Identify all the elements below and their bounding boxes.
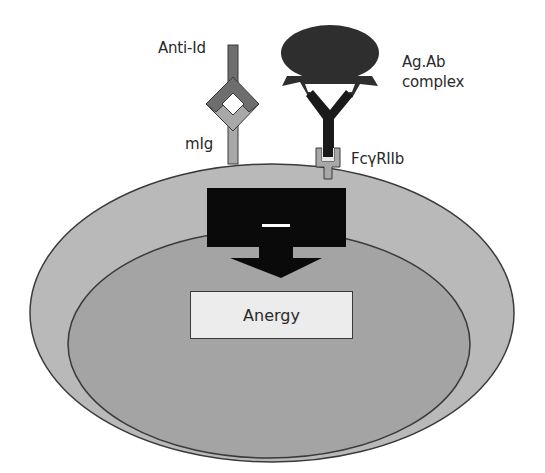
label-anti-id: Anti-Id <box>158 39 206 57</box>
label-ag-ab-complex: Ag.Ab complex <box>402 52 464 92</box>
label-ag-ab-line2: complex <box>402 72 464 92</box>
label-ag-ab-line1: Ag.Ab <box>402 52 464 72</box>
label-mig: mIg <box>185 135 213 153</box>
bound-antibody <box>306 90 353 158</box>
anti-id-antibody <box>206 45 259 115</box>
anergy-label: Anergy <box>243 306 300 325</box>
inhibition-sign <box>262 224 290 227</box>
label-fcgriib: FcγRIIb <box>351 150 404 168</box>
anergy-box: Anergy <box>190 291 353 339</box>
ag-ab-complex <box>281 25 379 158</box>
antigen-blob <box>281 25 379 81</box>
